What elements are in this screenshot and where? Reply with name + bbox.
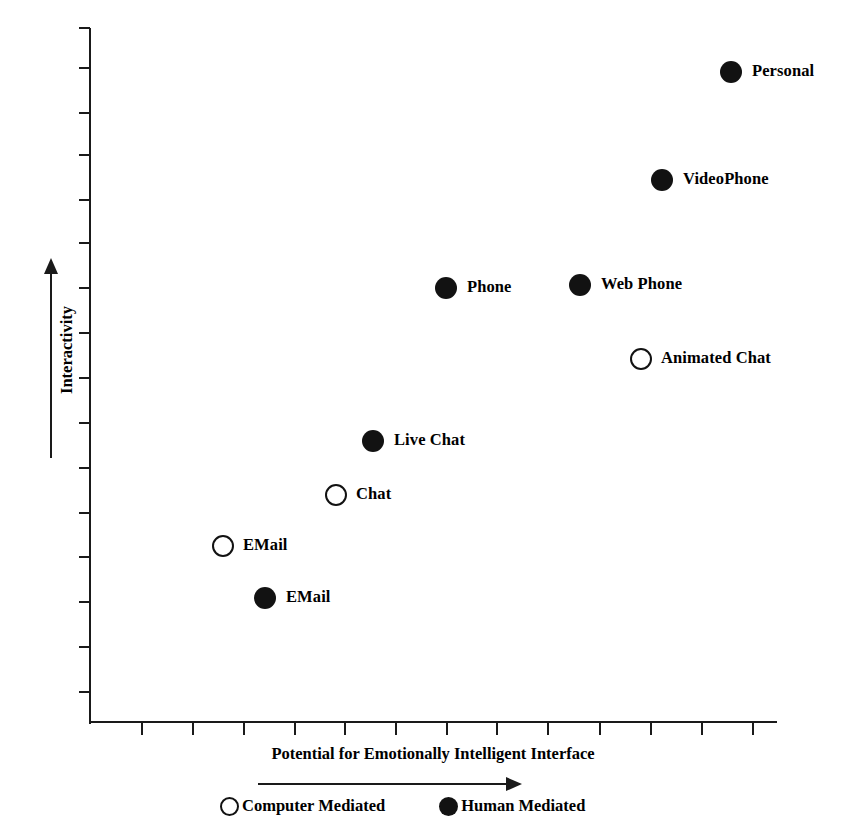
data-point-marker[interactable] xyxy=(325,484,347,506)
y-axis-label-group: Interactivity xyxy=(18,258,80,468)
legend-label: Computer Mediated xyxy=(242,798,385,815)
data-point-marker[interactable] xyxy=(435,277,457,299)
legend-item[interactable]: Human Mediated xyxy=(439,797,585,816)
x-axis-tick xyxy=(192,723,194,735)
y-axis-tick xyxy=(79,556,90,558)
data-point-label: Web Phone xyxy=(601,276,682,293)
open-circle-icon xyxy=(220,797,239,816)
up-arrow-icon xyxy=(50,272,52,458)
y-axis-tick xyxy=(79,691,90,693)
y-axis-tick xyxy=(79,27,90,29)
x-axis-title: Potential for Emotionally Intelligent In… xyxy=(89,744,777,764)
y-axis-tick xyxy=(79,332,90,334)
y-axis-tick xyxy=(79,199,90,201)
y-axis-tick xyxy=(79,67,90,69)
chart-legend: Computer MediatedHuman Mediated xyxy=(220,797,585,816)
x-axis-tick xyxy=(395,723,397,735)
data-point-label: EMail xyxy=(286,589,331,606)
x-axis-tick xyxy=(496,723,498,735)
x-axis-tick xyxy=(294,723,296,735)
data-point-label: Live Chat xyxy=(394,432,465,449)
right-arrow-head-icon xyxy=(506,777,522,791)
data-point-label: Chat xyxy=(356,486,391,503)
data-point-marker[interactable] xyxy=(720,61,742,83)
y-axis-line xyxy=(89,28,91,724)
data-point-marker[interactable] xyxy=(362,430,384,452)
up-arrow-head-icon xyxy=(44,258,58,274)
y-axis-title: Interactivity xyxy=(57,270,77,430)
x-axis-tick xyxy=(446,723,448,735)
filled-circle-icon xyxy=(439,797,458,816)
y-axis-tick xyxy=(79,287,90,289)
data-point-label: EMail xyxy=(243,537,288,554)
x-axis-tick xyxy=(243,723,245,735)
data-point-marker[interactable] xyxy=(569,274,591,296)
y-axis-tick xyxy=(79,242,90,244)
data-point-marker[interactable] xyxy=(630,348,652,370)
x-axis-tick xyxy=(141,723,143,735)
x-axis-tick xyxy=(701,723,703,735)
data-point-label: Personal xyxy=(752,63,814,80)
y-axis-tick xyxy=(79,601,90,603)
right-arrow-icon xyxy=(258,783,508,785)
x-axis-tick xyxy=(599,723,601,735)
x-axis-tick xyxy=(650,723,652,735)
x-axis-tick xyxy=(344,723,346,735)
data-point-label: VideoPhone xyxy=(683,171,769,188)
data-point-marker[interactable] xyxy=(254,587,276,609)
data-point-label: Animated Chat xyxy=(661,350,771,367)
right-arrow-group xyxy=(258,777,522,791)
y-axis-tick xyxy=(79,422,90,424)
data-point-label: Phone xyxy=(467,279,512,296)
y-axis-tick xyxy=(79,112,90,114)
x-axis-tick xyxy=(547,723,549,735)
y-axis-tick xyxy=(79,646,90,648)
x-axis-tick xyxy=(752,723,754,735)
data-point-marker[interactable] xyxy=(212,535,234,557)
legend-item[interactable]: Computer Mediated xyxy=(220,797,385,816)
y-axis-tick xyxy=(79,154,90,156)
y-axis-tick xyxy=(79,377,90,379)
y-axis-tick xyxy=(79,467,90,469)
scatter-chart: PersonalVideoPhoneWeb PhonePhoneAnimated… xyxy=(0,0,844,840)
legend-label: Human Mediated xyxy=(461,798,585,815)
data-point-marker[interactable] xyxy=(651,169,673,191)
y-axis-tick xyxy=(79,512,90,514)
